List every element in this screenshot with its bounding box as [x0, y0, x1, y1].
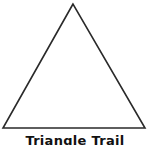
triangle-outline: [3, 4, 145, 128]
triangle-shape: [0, 0, 150, 145]
figure-caption: Triangle Trail: [0, 133, 150, 145]
diagram-canvas: Triangle Trail: [0, 0, 150, 145]
